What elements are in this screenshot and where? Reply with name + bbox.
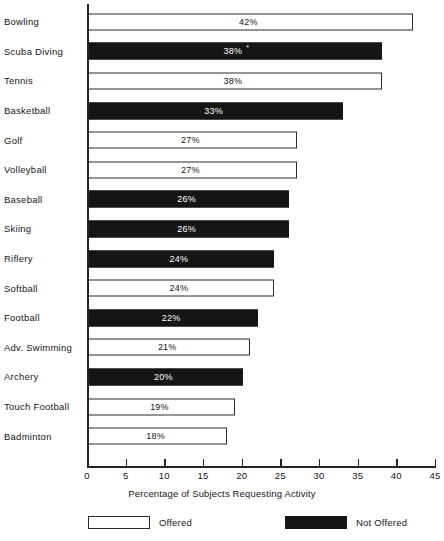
category-label: Baseball [4, 194, 84, 205]
plot-area: Bowling42%Scuba Diving38%*Tennis38%Baske… [0, 0, 444, 470]
category-label: Archery [4, 371, 84, 382]
annotation-asterisk-icon: * [246, 44, 249, 51]
x-axis-tick-label: 10 [159, 470, 170, 481]
category-label: Scuba Diving [4, 46, 84, 57]
bar-track: 33% [88, 96, 442, 126]
bar-offered: 27% [88, 161, 297, 178]
bar-offered: 18% [88, 428, 227, 445]
legend-swatch-not-offered [285, 516, 347, 529]
x-axis-tick [242, 459, 243, 466]
x-axis-tick [87, 459, 88, 466]
x-axis-tick-label: 25 [275, 470, 286, 481]
legend-item-not-offered: Not Offered [285, 516, 407, 529]
legend-item-offered: Offered [88, 516, 192, 529]
category-label: Adv. Swimming [4, 342, 84, 353]
bar-not-offered: 24% [88, 250, 274, 267]
bar-row: Golf27% [0, 125, 444, 155]
legend-label-offered: Offered [159, 517, 192, 528]
x-axis-tick-label: 20 [236, 470, 247, 481]
category-label: Volleyball [4, 164, 84, 175]
category-label: Softball [4, 283, 84, 294]
bar-offered: 42% [88, 13, 413, 30]
bar-row: Badminton18% [0, 421, 444, 451]
bar-track: 26% [88, 185, 442, 215]
category-label: Tennis [4, 75, 84, 86]
bar-track: 20% [88, 362, 442, 392]
bar-track: 27% [88, 125, 442, 155]
bar-row: Adv. Swimming21% [0, 333, 444, 363]
x-axis-tick-label: 0 [84, 470, 89, 481]
category-label: Touch Football [4, 401, 84, 412]
chart-legend: Offered Not Offered [0, 516, 444, 538]
bar-value-label: 33% [204, 106, 223, 115]
y-axis-line [87, 4, 89, 467]
bar-not-offered: 20% [88, 368, 243, 385]
bar-value-label: 20% [154, 372, 173, 381]
x-axis-title: Percentage of Subjects Requesting Activi… [0, 488, 444, 499]
bar-track: 38%* [88, 37, 442, 67]
bar-offered: 24% [88, 280, 274, 297]
bar-value-label: 22% [162, 313, 181, 322]
bar-row: Scuba Diving38%* [0, 37, 444, 67]
x-axis-tick [435, 459, 436, 466]
bar-track: 26% [88, 214, 442, 244]
category-label: Football [4, 312, 84, 323]
x-axis-tick [164, 459, 165, 466]
bar-row: Archery20% [0, 362, 444, 392]
bar-not-offered: 38%* [88, 43, 382, 60]
category-label: Skiing [4, 223, 84, 234]
bar-row: Tennis38% [0, 66, 444, 96]
bar-row: Softball24% [0, 273, 444, 303]
bar-rows: Bowling42%Scuba Diving38%*Tennis38%Baske… [0, 7, 444, 451]
bar-not-offered: 22% [88, 309, 258, 326]
bar-track: 22% [88, 303, 442, 333]
x-axis-tick-label: 45 [430, 470, 441, 481]
bar-value-label: 24% [169, 254, 188, 263]
x-axis-tick [126, 459, 127, 466]
x-axis-tick [203, 459, 204, 466]
x-axis-tick-label: 40 [391, 470, 402, 481]
bar-value-label: 18% [146, 432, 165, 441]
bar-row: Football22% [0, 303, 444, 333]
bar-row: Basketball33% [0, 96, 444, 126]
bar-value-label: 42% [239, 17, 258, 26]
horizontal-bar-chart: Bowling42%Scuba Diving38%*Tennis38%Baske… [0, 0, 444, 541]
bar-not-offered: 26% [88, 220, 289, 237]
bar-track: 42% [88, 7, 442, 37]
bar-offered: 38% [88, 72, 382, 89]
bar-offered: 27% [88, 132, 297, 149]
bar-value-label: 27% [181, 165, 200, 174]
bar-row: Volleyball27% [0, 155, 444, 185]
category-label: Golf [4, 135, 84, 146]
bar-row: Bowling42% [0, 7, 444, 37]
bar-value-label: 26% [177, 224, 196, 233]
x-axis-tick-label: 35 [352, 470, 363, 481]
bar-track: 21% [88, 333, 442, 363]
bar-track: 24% [88, 244, 442, 274]
bar-value-label: 38%* [224, 47, 243, 56]
bar-not-offered: 26% [88, 191, 289, 208]
x-axis-tick-label: 5 [123, 470, 128, 481]
bar-row: Riflery24% [0, 244, 444, 274]
legend-label-not-offered: Not Offered [356, 517, 407, 528]
bar-offered: 19% [88, 398, 235, 415]
bar-value-label: 21% [158, 343, 177, 352]
legend-swatch-offered [88, 516, 150, 529]
bar-offered: 21% [88, 339, 250, 356]
bar-track: 24% [88, 273, 442, 303]
x-axis-tick-label: 30 [314, 470, 325, 481]
bar-value-label: 26% [177, 195, 196, 204]
x-axis-tick [358, 459, 359, 466]
x-axis-tick [319, 459, 320, 466]
bar-row: Skiing26% [0, 214, 444, 244]
category-label: Basketball [4, 105, 84, 116]
category-label: Badminton [4, 431, 84, 442]
bar-value-label: 27% [181, 136, 200, 145]
bar-value-label: 19% [150, 402, 169, 411]
bar-value-label: 24% [169, 284, 188, 293]
bar-value-label: 38% [224, 76, 243, 85]
category-label: Riflery [4, 253, 84, 264]
x-axis-tick [396, 459, 397, 466]
bar-row: Baseball26% [0, 185, 444, 215]
bar-track: 18% [88, 421, 442, 451]
